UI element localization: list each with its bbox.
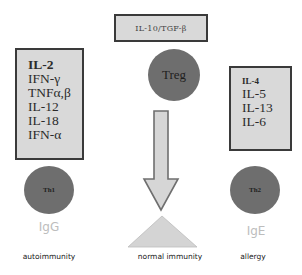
treg-cell: Treg (148, 49, 200, 101)
normal-immunity-caption: normal immunity (138, 252, 202, 261)
th1-cell: Th1 (24, 166, 74, 214)
th2-cytokine-box: IL-4 IL-5 IL-13 IL-6 (229, 66, 292, 151)
autoimmunity-caption: autoimmunity (23, 252, 76, 261)
allergy-caption: allergy (240, 252, 266, 261)
treg-cytokine-box: IL-10/TGF-β (114, 14, 208, 42)
th2-cytokine: IL-5 (242, 87, 290, 101)
th1-cytokine: TNFα,β (28, 86, 82, 100)
th2-cytokine: IL-6 (242, 115, 290, 129)
th1-cytokine: IFN-γ (28, 72, 82, 86)
th1-cell-label: Th1 (43, 186, 55, 194)
balance-triangle-icon (128, 216, 197, 247)
th1-antibody-label: IgG (39, 220, 59, 234)
th1-cytokine: IL-12 (28, 100, 82, 114)
th2-cell-label: Th2 (249, 186, 261, 194)
th2-cytokine: IL-13 (242, 101, 290, 115)
th1-cytokine: IFN-α (28, 128, 82, 142)
th1-cytokine-box: IL-2 IFN-γ TNFα,β IL-12 IL-18 IFN-α (15, 48, 84, 160)
th1-cytokine: IL-2 (28, 58, 82, 72)
treg-cytokines-label: IL-10/TGF-β (135, 24, 187, 33)
th2-antibody-label: IgE (247, 224, 266, 238)
treg-cell-label: Treg (162, 67, 186, 83)
down-arrow-icon (144, 111, 178, 210)
th2-cell: Th2 (230, 166, 280, 214)
th1-cytokine: IL-18 (28, 114, 82, 128)
